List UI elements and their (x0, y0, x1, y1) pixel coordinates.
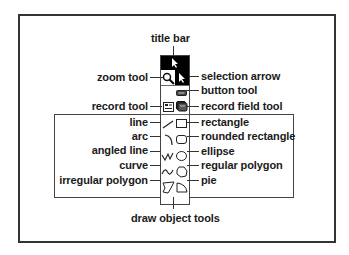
label-rectangle: rectangle (201, 116, 249, 128)
angled-line-icon (162, 150, 174, 162)
leader-record-tool (150, 106, 162, 107)
palette-title-bar[interactable] (161, 56, 189, 70)
leader-pie (187, 180, 199, 181)
curve-tool-button[interactable] (161, 164, 175, 180)
arrow-icon (179, 73, 187, 83)
rectangle-tool-button[interactable] (175, 116, 189, 132)
label-ellipse: ellipse (201, 145, 235, 157)
line-icon (162, 118, 174, 130)
leader-record-field-tool (187, 106, 199, 107)
label-record-tool: record tool (92, 100, 148, 112)
label-title-bar: title bar (151, 32, 190, 44)
label-angled-line: angled line (92, 144, 148, 156)
leader-line (150, 122, 161, 123)
leader-rounded-rectangle (187, 136, 199, 137)
leader-ellipse (187, 151, 199, 152)
curve-icon (162, 166, 174, 178)
leader-arc (150, 136, 161, 137)
record-field-tool-button[interactable] (175, 100, 189, 114)
palette-divider (161, 85, 189, 86)
regular-polygon-icon (176, 166, 188, 178)
leader-curve (150, 165, 161, 166)
label-arc: arc (132, 130, 148, 142)
arrow-icon (172, 58, 180, 68)
leader-irregular-polygon (150, 180, 161, 181)
regular-polygon-tool-button[interactable] (175, 164, 189, 180)
selection-arrow-button[interactable] (175, 70, 189, 85)
tool-palette (160, 55, 190, 205)
leader-regular-polygon (187, 165, 199, 166)
zoom-tool-button[interactable] (161, 70, 175, 85)
label-pie: pie (201, 174, 217, 186)
pie-tool-button[interactable] (175, 180, 189, 196)
angled-line-tool-button[interactable] (161, 148, 175, 164)
irregular-polygon-icon (162, 182, 175, 194)
irregular-polygon-tool-button[interactable] (161, 180, 175, 196)
label-regular-polygon: regular polygon (201, 159, 283, 171)
magnifier-icon (162, 72, 176, 86)
label-zoom-tool: zoom tool (97, 71, 148, 83)
leader-selection-arrow (189, 76, 199, 77)
leader-button-tool (186, 90, 199, 91)
line-tool-button[interactable] (161, 116, 175, 132)
label-irregular-polygon: irregular polygon (59, 174, 148, 186)
button-tool-button[interactable] (175, 87, 189, 99)
rectangle-icon (176, 118, 188, 130)
palette-divider (161, 114, 189, 115)
leader-angled-line (150, 151, 161, 152)
record-icon (163, 102, 175, 112)
leader-draw-object-tools (173, 197, 174, 209)
arc-icon (162, 134, 174, 146)
label-record-field-tool: record field tool (201, 100, 282, 112)
pie-icon (176, 182, 188, 194)
label-selection-arrow: selection arrow (201, 70, 280, 82)
leader-zoom-tool (150, 77, 163, 78)
label-rounded-rectangle: rounded rectangle (201, 130, 295, 142)
arc-tool-button[interactable] (161, 132, 175, 148)
rounded-rectangle-tool-button[interactable] (175, 132, 189, 148)
label-button-tool: button tool (201, 84, 257, 96)
label-line: line (129, 116, 148, 128)
record-tool-button[interactable] (161, 100, 175, 114)
label-draw-object-tools: draw object tools (131, 212, 220, 224)
label-curve: curve (119, 159, 148, 171)
leader-rectangle (187, 122, 199, 123)
